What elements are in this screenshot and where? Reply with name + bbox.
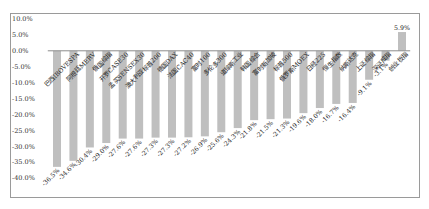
y-tick-label: -10.0% <box>12 79 35 87</box>
y-tick-label: -5.0% <box>12 63 31 71</box>
bar-chart: 10.0%5.0%0.0%-5.0%-10.0%-15.0%-20.0%-25.… <box>0 0 429 209</box>
y-tick-label: -25.0% <box>12 127 35 135</box>
bar <box>398 32 406 51</box>
y-tick-label: -20.0% <box>12 111 35 119</box>
y-tick-label: 0.0% <box>12 47 29 55</box>
y-tick-label: -35.0% <box>12 158 35 166</box>
y-tick-label: 10.0% <box>12 15 33 23</box>
y-tick-label: -40.0% <box>12 174 35 182</box>
value-label: 5.9% <box>394 24 410 31</box>
y-tick-label: -30.0% <box>12 143 35 151</box>
y-tick-label: -15.0% <box>12 95 35 103</box>
y-tick-label: 5.0% <box>12 31 29 39</box>
